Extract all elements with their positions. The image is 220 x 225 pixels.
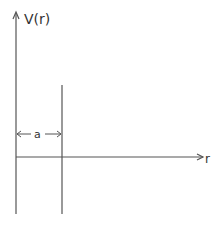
x-axis xyxy=(16,154,203,160)
y-axis xyxy=(13,12,19,214)
width-label: a xyxy=(34,128,41,141)
y-axis-label: V(r) xyxy=(24,11,50,27)
x-axis-label: r xyxy=(205,152,210,166)
potential-diagram: V(r) r a xyxy=(0,0,220,225)
